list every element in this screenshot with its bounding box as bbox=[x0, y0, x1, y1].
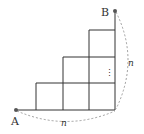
staircase-grid-diagram: A B n n ⋮ bbox=[0, 0, 144, 134]
vertical-ellipsis: ⋮ bbox=[105, 68, 114, 78]
diagram-svg: A B n n ⋮ bbox=[0, 0, 144, 134]
right-dashed-arc bbox=[116, 12, 128, 109]
point-a-dot bbox=[14, 108, 18, 112]
right-side-label: n bbox=[128, 58, 134, 68]
point-b-label: B bbox=[101, 6, 109, 19]
bottom-side-label: n bbox=[61, 118, 67, 128]
point-a-label: A bbox=[10, 115, 20, 128]
point-b-dot bbox=[113, 9, 117, 13]
grid-lines bbox=[16, 11, 115, 110]
